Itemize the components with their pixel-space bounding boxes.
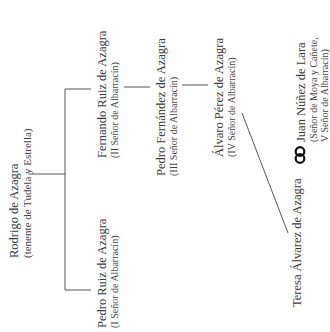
node-fernando: Fernando Ruiz de Azagra (II Señor de Alb… (96, 31, 120, 158)
node-name: Rodrigo de Azagra (8, 128, 21, 258)
node-name: Álvaro Pérez de Azagra (213, 38, 226, 157)
node-pedro-fernandez: Pedro Fernández de Azagra (III Señor de … (155, 38, 179, 176)
node-alvaro: Álvaro Pérez de Azagra (IV Señor de Alba… (213, 38, 237, 157)
node-title: (tenente de Tudela y Estrella) (22, 128, 33, 258)
node-title: (IV Señor de Albarracín) (227, 38, 237, 157)
node-name: Teresa Álvarez de Azagra (291, 178, 304, 307)
node-name: Pedro Ruiz de Azagra (96, 219, 109, 328)
node-pedro-ruiz: Pedro Ruiz de Azagra (I Señor de Albarra… (96, 219, 120, 328)
node-name: Juan Núñez de Lara (295, 37, 308, 142)
node-juan: Juan Núñez de Lara (Señor de Moya y Cañe… (295, 37, 330, 142)
node-title-line2: V Señor de Albarracín) (320, 37, 330, 142)
marriage-rings-icon (291, 146, 309, 164)
node-name: Fernando Ruiz de Azagra (96, 31, 109, 158)
connector-to-teresa (242, 113, 288, 233)
node-title: (III Señor de Albarracín) (169, 38, 179, 176)
node-title: (II Señor de Albarracín) (110, 31, 120, 158)
node-teresa: Teresa Álvarez de Azagra (291, 178, 304, 307)
node-name: Pedro Fernández de Azagra (155, 38, 168, 176)
node-rodrigo: Rodrigo de Azagra (tenente de Tudela y E… (8, 128, 33, 258)
node-title-line1: (Señor de Moya y Cañete, (309, 37, 319, 142)
node-title: (I Señor de Albarracín) (110, 219, 120, 328)
